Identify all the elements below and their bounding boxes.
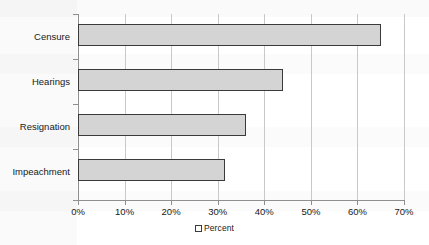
gridline-70 (404, 14, 405, 200)
x-tick-10 (125, 200, 126, 205)
x-axis-line (78, 200, 405, 201)
x-tick-60 (357, 200, 358, 205)
bar-hearings (78, 69, 283, 91)
chart-legend: Percent (0, 223, 429, 233)
legend-swatch-icon (195, 225, 202, 232)
legend-label-percent: Percent (204, 223, 234, 233)
y-axis-label-censure: Censure (0, 31, 70, 42)
plot-area (78, 14, 404, 200)
x-tick-label-20: 20% (151, 206, 191, 217)
x-tick-40 (264, 200, 265, 205)
y-axis-label-impeachment: Impeachment (0, 166, 70, 177)
bar-censure (78, 24, 381, 46)
bar-chart: Censure Hearings Resignation Impeachment… (0, 0, 429, 245)
y-axis-label-hearings: Hearings (0, 76, 70, 87)
x-tick-label-10: 10% (105, 206, 145, 217)
x-tick-label-70: 70% (384, 206, 424, 217)
x-tick-50 (311, 200, 312, 205)
x-tick-70 (404, 200, 405, 205)
y-axis-label-resignation: Resignation (0, 121, 70, 132)
x-tick-20 (171, 200, 172, 205)
x-tick-label-50: 50% (291, 206, 331, 217)
x-tick-0 (78, 200, 79, 205)
x-tick-30 (218, 200, 219, 205)
x-tick-label-60: 60% (337, 206, 377, 217)
x-tick-label-40: 40% (244, 206, 284, 217)
x-tick-label-30: 30% (198, 206, 238, 217)
bar-impeachment (78, 159, 225, 181)
bar-resignation (78, 114, 246, 136)
x-tick-label-0: 0% (58, 206, 98, 217)
